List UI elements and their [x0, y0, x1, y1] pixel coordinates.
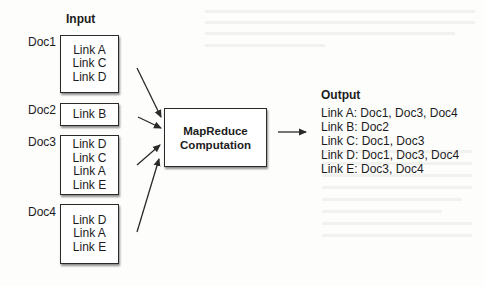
output-line: Link B: Doc2: [321, 120, 459, 134]
output-line: Link E: Doc3, Doc4: [321, 162, 459, 176]
arrow-doc1-to-mapreduce: [137, 68, 161, 117]
output-line: Link D: Doc1, Doc3, Doc4: [321, 148, 459, 162]
arrow-doc2-to-mapreduce: [138, 117, 161, 128]
output-list: Link A: Doc1, Doc3, Doc4 Link B: Doc2 Li…: [321, 106, 459, 176]
output-line: Link A: Doc1, Doc3, Doc4: [321, 106, 459, 120]
arrow-doc4-to-mapreduce: [137, 159, 159, 232]
arrow-doc3-to-mapreduce: [137, 145, 160, 165]
output-title: Output: [321, 88, 360, 102]
output-line: Link C: Doc1, Doc3: [321, 134, 459, 148]
